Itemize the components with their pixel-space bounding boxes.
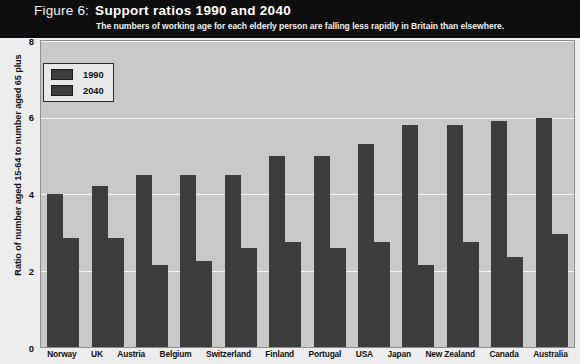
y-tick-label-0: 0 xyxy=(14,343,34,354)
chart-legend: 19902040 xyxy=(43,63,114,102)
x-axis-labels: NorwayUKAustriaBelgiumSwitzerlandFinland… xyxy=(40,349,575,364)
bar-2040-norway[interactable] xyxy=(63,238,79,347)
legend-swatch-icon-1990 xyxy=(51,69,73,80)
bar-group xyxy=(402,41,434,347)
x-axis-label-uk: UK xyxy=(91,349,103,359)
x-axis-label-usa: USA xyxy=(356,349,373,359)
x-axis-label-portugal: Portugal xyxy=(309,349,342,359)
figure-label: Figure 6: xyxy=(34,3,89,18)
bar-group xyxy=(358,41,390,347)
chart-header: Figure 6: Support ratios 1990 and 2040 T… xyxy=(0,0,580,38)
bar-1990-portugal[interactable] xyxy=(314,156,330,347)
bar-2040-uk[interactable] xyxy=(108,238,124,347)
bar-2040-finland[interactable] xyxy=(285,242,301,347)
x-axis-label-belgium: Belgium xyxy=(160,349,192,359)
bar-2040-switzerland[interactable] xyxy=(241,248,257,347)
x-axis-label-new-zealand: New Zealand xyxy=(425,349,475,359)
bar-group xyxy=(136,41,168,347)
chart-page: Figure 6: Support ratios 1990 and 2040 T… xyxy=(0,0,580,364)
bar-group xyxy=(180,41,212,347)
bar-2040-japan[interactable] xyxy=(418,265,434,347)
x-axis-label-australia: Australia xyxy=(533,349,568,359)
y-tick-label-2: 2 xyxy=(14,266,34,277)
bar-1990-australia[interactable] xyxy=(536,118,552,348)
y-tick-label-4: 4 xyxy=(14,189,34,200)
bar-group xyxy=(491,41,523,347)
x-axis-label-switzerland: Switzerland xyxy=(206,349,251,359)
bar-group xyxy=(536,41,568,347)
bar-1990-usa[interactable] xyxy=(358,144,374,347)
page-title: Support ratios 1990 and 2040 xyxy=(95,3,291,18)
x-axis-label-finland: Finland xyxy=(265,349,294,359)
bar-group xyxy=(447,41,479,347)
bar-2040-portugal[interactable] xyxy=(330,248,346,347)
legend-swatch-icon-2040 xyxy=(51,85,73,96)
legend-label-2040: 2040 xyxy=(83,86,104,96)
bar-group xyxy=(225,41,257,347)
bar-1990-finland[interactable] xyxy=(269,156,285,347)
bar-1990-uk[interactable] xyxy=(92,186,108,347)
bar-1990-austria[interactable] xyxy=(136,175,152,347)
bar-1990-switzerland[interactable] xyxy=(225,175,241,347)
x-axis-label-japan: Japan xyxy=(387,349,410,359)
bar-1990-new-zealand[interactable] xyxy=(447,125,463,347)
title-row: Figure 6: Support ratios 1990 and 2040 xyxy=(34,3,291,18)
bar-group xyxy=(314,41,346,347)
x-axis-label-norway: Norway xyxy=(47,349,76,359)
bar-2040-austria[interactable] xyxy=(152,265,168,347)
legend-item-1990[interactable]: 1990 xyxy=(51,69,104,80)
bar-2040-australia[interactable] xyxy=(552,234,568,347)
bar-1990-belgium[interactable] xyxy=(180,175,196,347)
bar-2040-new-zealand[interactable] xyxy=(463,242,479,347)
legend-item-2040[interactable]: 2040 xyxy=(51,85,104,96)
chart-subtitle: The numbers of working age for each elde… xyxy=(96,21,504,31)
bar-group xyxy=(269,41,301,347)
bar-1990-canada[interactable] xyxy=(491,121,507,347)
plot-area xyxy=(40,40,575,348)
bar-groups xyxy=(41,41,574,347)
bar-2040-canada[interactable] xyxy=(507,257,523,347)
y-tick-label-6: 6 xyxy=(14,112,34,123)
x-axis-label-canada: Canada xyxy=(489,349,518,359)
x-axis-label-austria: Austria xyxy=(117,349,145,359)
legend-label-1990: 1990 xyxy=(83,70,104,80)
bar-1990-japan[interactable] xyxy=(402,125,418,347)
bar-2040-belgium[interactable] xyxy=(196,261,212,347)
bar-2040-usa[interactable] xyxy=(374,242,390,347)
y-tick-label-8: 8 xyxy=(14,36,34,47)
bar-1990-norway[interactable] xyxy=(47,194,63,347)
